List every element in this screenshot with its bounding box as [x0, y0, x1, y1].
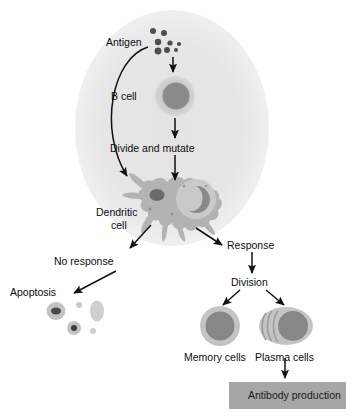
- label-divide-and-mutate: Divide and mutate: [110, 142, 195, 154]
- dendritic-granule: [149, 208, 152, 211]
- label-antigen: Antigen: [106, 36, 142, 48]
- label-plasma-cells: Plasma cells: [255, 351, 314, 363]
- b-cell-response-diagram: Antigen B cell Divide and mutate Dendrit…: [0, 0, 354, 419]
- b-cell-graphic: [155, 76, 195, 116]
- label-memory-cells: Memory cells: [184, 351, 246, 363]
- arrow-division-to-plasma: [266, 290, 284, 305]
- apoptotic-body-nucleus: [71, 325, 77, 331]
- antigen-dot: [155, 48, 162, 55]
- label-no-response: No response: [54, 255, 114, 267]
- label-antibody-production: Antibody production: [248, 389, 341, 401]
- label-apoptosis: Apoptosis: [10, 286, 56, 298]
- label-division: Division: [231, 276, 268, 288]
- label-dendritic-cell-line2: cell: [111, 219, 127, 231]
- diagram-canvas: Antigen B cell Divide and mutate Dendrit…: [0, 0, 354, 419]
- dendritic-granule: [183, 185, 186, 188]
- engulfed-b-cell-cytoplasm: [176, 179, 216, 219]
- memory-cell-nucleus: [206, 312, 235, 341]
- plasma-cell-nucleus: [278, 311, 308, 341]
- apoptotic-body-nucleus: [51, 308, 61, 315]
- dendritic-nucleus: [150, 189, 165, 201]
- antigen-dot: [164, 47, 170, 53]
- apoptotic-bodies-graphic: [47, 301, 105, 336]
- arrow-no-response-to-apoptosis: [74, 271, 116, 293]
- label-response: Response: [227, 239, 274, 251]
- apoptotic-body: [90, 301, 104, 322]
- antigen-dot: [167, 40, 172, 45]
- apoptotic-body: [90, 328, 96, 334]
- antigen-dot: [155, 39, 161, 45]
- apoptotic-body: [76, 302, 82, 308]
- label-dendritic-cell-line1: Dendritic: [96, 206, 137, 218]
- antigen-dot: [174, 48, 178, 52]
- plasma-cell-graphic: [259, 307, 313, 345]
- dendritic-granule: [205, 185, 208, 188]
- arrow-division-to-memory: [223, 290, 240, 305]
- b-cell-nucleus: [163, 83, 190, 110]
- antigen-dot: [150, 28, 156, 34]
- dendritic-granule: [171, 213, 174, 216]
- memory-cell-graphic: [200, 306, 240, 346]
- antigen-dot: [161, 30, 167, 36]
- antigen-dot: [177, 42, 181, 46]
- label-b-cell: B cell: [111, 90, 137, 102]
